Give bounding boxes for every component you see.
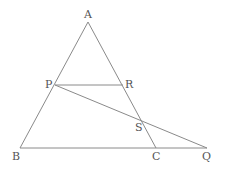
- point-label-R: R: [125, 79, 133, 90]
- point-label-S: S: [135, 122, 143, 133]
- point-label-A: A: [84, 9, 92, 20]
- point-label-Q: Q: [202, 151, 211, 162]
- point-label-P: P: [45, 79, 52, 90]
- point-label-B: B: [12, 151, 20, 162]
- diagram-lines: [0, 0, 225, 172]
- geometry-diagram: A B C Q P R S: [0, 0, 225, 172]
- point-label-C: C: [152, 151, 160, 162]
- segment-PQ: [55, 85, 207, 148]
